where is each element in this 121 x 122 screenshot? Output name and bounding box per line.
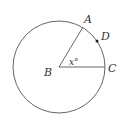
label-c: C bbox=[108, 62, 117, 75]
angle-label: x° bbox=[69, 57, 79, 67]
label-b: B bbox=[43, 66, 52, 79]
point-d-dot bbox=[96, 40, 99, 43]
circle-diagram: A B C D x° bbox=[0, 0, 121, 122]
label-a: A bbox=[83, 13, 92, 26]
label-d: D bbox=[100, 30, 110, 43]
